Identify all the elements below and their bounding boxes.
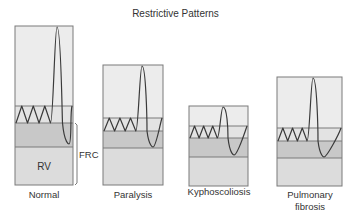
kyphoscoliosis-irv-region <box>189 106 248 126</box>
pulmonary-fibrosis-erv-region <box>277 141 342 158</box>
rv-label: RV <box>37 161 51 172</box>
lung-volume-diagram: FRCRV <box>0 0 351 215</box>
paralysis-rv-region <box>103 148 163 185</box>
paralysis-irv-region <box>103 65 163 118</box>
label-pulmonary-line1: Pulmonary <box>272 189 348 201</box>
frc-label: FRC <box>79 149 99 160</box>
label-paralysis: Paralysis <box>103 189 163 201</box>
kyphoscoliosis-rv-region <box>189 157 248 186</box>
label-pulmonary-fibrosis: Pulmonary fibrosis <box>272 189 348 213</box>
pulmonary-fibrosis-rv-region <box>277 158 342 186</box>
frc-bracket <box>75 123 77 185</box>
normal-irv-region <box>15 26 73 106</box>
label-kyphoscoliosis: Kyphoscoliosis <box>180 186 258 198</box>
label-pulmonary-line2: fibrosis <box>272 201 348 213</box>
label-normal: Normal <box>14 189 74 201</box>
